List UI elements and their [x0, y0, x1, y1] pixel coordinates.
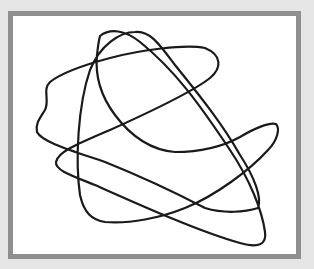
scribble-drawing — [0, 0, 314, 269]
closed-scribble-curve — [37, 31, 278, 245]
